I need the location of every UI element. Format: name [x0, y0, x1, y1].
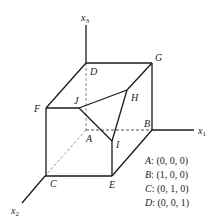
- hidden-edge-AC: [45, 130, 86, 176]
- vertex-label-G: G: [155, 52, 162, 63]
- axis-label-x2: x2: [10, 205, 19, 218]
- legend-item-D: D: (0, 0, 1): [144, 197, 189, 209]
- legend-item-C: C: (0, 1, 0): [145, 183, 189, 195]
- edge-GH: [127, 63, 152, 90]
- vertex-label-B: B: [144, 118, 150, 129]
- edge-DF: [46, 63, 86, 108]
- vertex-label-C: C: [50, 178, 57, 189]
- vertex-label-I: I: [115, 139, 120, 150]
- x2-axis: [22, 176, 45, 203]
- vertex-label-D: D: [89, 66, 98, 77]
- vertex-label-F: F: [33, 103, 41, 114]
- vertex-label-A: A: [85, 133, 93, 144]
- legend-item-A: A: (0, 0, 0): [144, 155, 188, 167]
- legend-item-B: B: (1, 0, 0): [145, 169, 188, 181]
- edge-HI: [112, 90, 127, 141]
- axis-label-x1: x1: [197, 125, 206, 138]
- coordinate-legend: A: (0, 0, 0) B: (1, 0, 0) C: (0, 1, 0) D…: [144, 155, 189, 209]
- axis-label-x3: x3: [80, 12, 89, 25]
- vertex-label-J: J: [74, 95, 79, 106]
- vertex-label-H: H: [130, 92, 139, 103]
- cube-diagram: x3 x1 x2 D G H F J A B I C E A: (0, 0, 0…: [0, 0, 214, 221]
- edge-JI: [79, 108, 112, 141]
- vertex-label-E: E: [108, 179, 115, 190]
